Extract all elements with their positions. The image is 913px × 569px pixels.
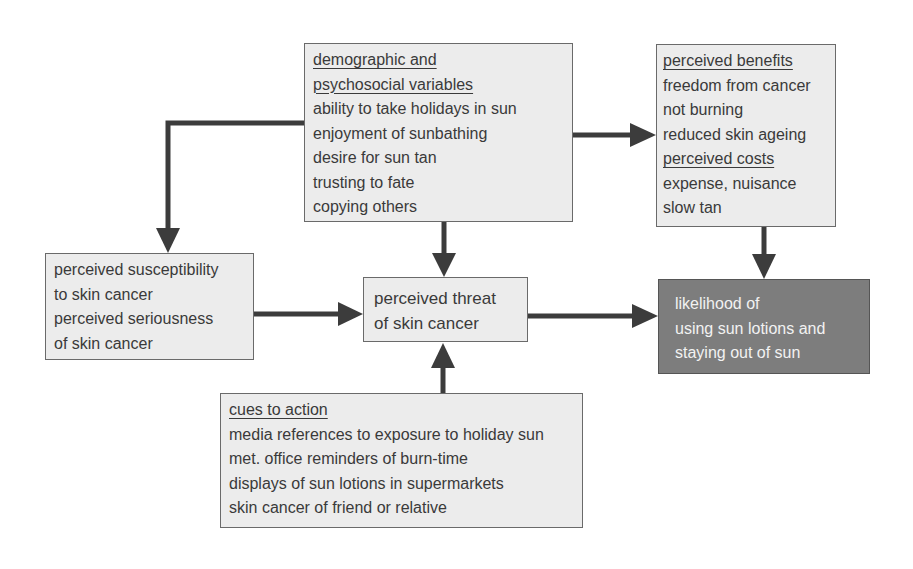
arrowhead-icon [431, 343, 455, 368]
demographic-item: copying others [313, 195, 564, 220]
cue-item: skin cancer of friend or relative [229, 496, 574, 521]
arrowhead-icon [432, 253, 456, 277]
arrowhead-icon [632, 304, 658, 328]
demographic-item: enjoyment of sunbathing [313, 122, 564, 147]
arrowhead-icon [630, 123, 656, 147]
susceptibility-line: perceived susceptibility [54, 258, 245, 283]
cue-item: displays of sun lotions in supermarkets [229, 472, 574, 497]
likelihood-line: likelihood of [675, 292, 853, 317]
node-demographic-variables: demographic and psychosocial variables a… [304, 43, 573, 222]
cue-item: media references to exposure to holiday … [229, 423, 574, 448]
cost-item: slow tan [663, 196, 831, 221]
benefit-item: not burning [663, 98, 831, 123]
node-benefits-costs: perceived benefits freedom from cancer n… [656, 44, 836, 227]
cue-item: met. office reminders of burn-time [229, 447, 574, 472]
node-likelihood-outcome: likelihood of using sun lotions and stay… [658, 279, 870, 374]
likelihood-line: staying out of sun [675, 341, 853, 366]
threat-line: of skin cancer [374, 311, 517, 336]
node-susceptibility-seriousness: perceived susceptibility to skin cancer … [45, 253, 254, 360]
cost-item: expense, nuisance [663, 172, 831, 197]
node-cues-to-action: cues to action media references to expos… [220, 393, 583, 528]
arrowhead-icon [338, 302, 363, 326]
likelihood-line: using sun lotions and [675, 317, 853, 342]
susceptibility-line: to skin cancer [54, 283, 245, 308]
demographic-item: ability to take holidays in sun [313, 97, 564, 122]
arrowhead-icon [752, 254, 776, 279]
costs-heading: perceived costs [663, 147, 831, 172]
cues-heading: cues to action [229, 398, 574, 423]
node-perceived-threat: perceived threat of skin cancer [363, 277, 528, 342]
seriousness-line: of skin cancer [54, 332, 245, 357]
demographic-heading-line-2: psychosocial variables [313, 73, 564, 98]
benefit-item: freedom from cancer [663, 74, 831, 99]
demographic-item: desire for sun tan [313, 146, 564, 171]
benefits-heading: perceived benefits [663, 49, 831, 74]
seriousness-line: perceived seriousness [54, 307, 245, 332]
benefit-item: reduced skin ageing [663, 123, 831, 148]
threat-line: perceived threat [374, 286, 517, 311]
demographic-heading-line-1: demographic and [313, 48, 564, 73]
arrow-demographic-to-susceptibility [168, 123, 304, 228]
demographic-item: trusting to fate [313, 171, 564, 196]
arrowhead-icon [156, 228, 180, 253]
